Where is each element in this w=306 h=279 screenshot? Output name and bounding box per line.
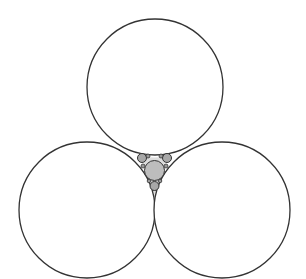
tiny-5 [147, 179, 151, 183]
tiny-4 [164, 164, 168, 168]
small-bottom [150, 182, 159, 191]
tiny-2 [159, 154, 163, 158]
top-circle [87, 19, 223, 155]
apollonian-gasket-diagram [0, 0, 306, 279]
tiny-1 [146, 154, 150, 158]
outer-circles [19, 19, 290, 278]
tiny-6 [158, 179, 162, 183]
left-circle [19, 142, 155, 278]
center-circle [145, 161, 165, 181]
small-upper-right [163, 154, 172, 163]
small-upper-left [138, 154, 147, 163]
tiny-3 [141, 164, 145, 168]
right-circle [154, 142, 290, 278]
